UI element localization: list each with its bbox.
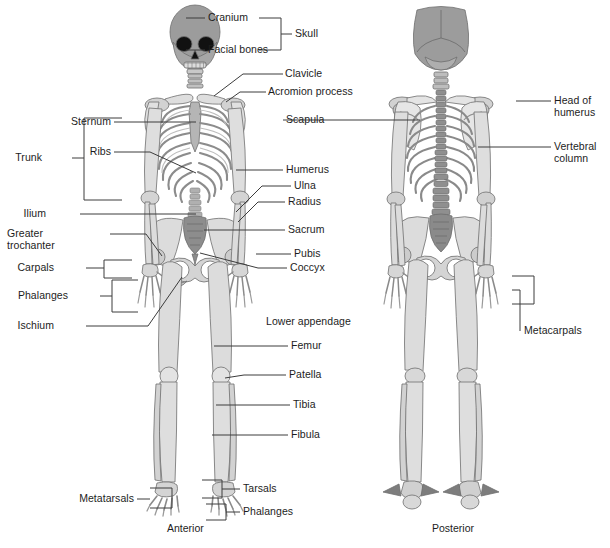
label-skull: Skull — [295, 28, 318, 40]
leader-acromion — [226, 92, 266, 102]
leader-ulna — [236, 186, 291, 212]
label-phalanges-foot: Phalanges — [243, 506, 293, 518]
label-tibia: Tibia — [293, 399, 316, 411]
label-carpals: Carpals — [2, 262, 54, 274]
skeleton-diagram: Cranium Facial bones Sternum Ribs Trunk … — [0, 0, 610, 548]
label-vertebral-column: Vertebral column — [554, 141, 596, 164]
bracket-tarsals — [202, 480, 240, 498]
leader-metatarsals — [137, 488, 172, 508]
label-cranium: Cranium — [208, 12, 248, 24]
label-ischium: Ischium — [2, 320, 54, 332]
leader-lines-layer — [0, 0, 610, 548]
leader-coccyx — [200, 253, 287, 268]
bracket-carpals — [86, 260, 132, 278]
bracket-metacarpals — [512, 276, 534, 331]
label-ulna: Ulna — [294, 180, 316, 192]
label-greater-trochanter: Greater trochanter — [7, 228, 55, 251]
label-lower-appendage: Lower appendage — [266, 316, 351, 328]
bracket-phalanges-foot — [206, 504, 240, 520]
label-pubis: Pubis — [294, 248, 321, 260]
label-sacrum: Sacrum — [288, 224, 324, 236]
label-radius: Radius — [288, 196, 321, 208]
leader-ischium — [86, 277, 182, 326]
label-fibula: Fibula — [291, 429, 320, 441]
leader-patella — [225, 375, 286, 378]
label-ilium: Ilium — [2, 208, 46, 220]
caption-posterior: Posterior — [432, 522, 474, 534]
label-femur: Femur — [291, 340, 322, 352]
leader-ribs — [114, 152, 196, 173]
leader-greater-trochanter — [110, 234, 162, 256]
label-sternum: Sternum — [20, 116, 111, 128]
label-coccyx: Coccyx — [290, 262, 325, 274]
label-tarsals: Tarsals — [243, 483, 277, 495]
label-acromion-process: Acromion process — [268, 86, 353, 98]
bracket-phalanges-hand — [100, 280, 138, 312]
label-phalanges-hand: Phalanges — [2, 290, 68, 302]
label-scapula: Scapula — [286, 114, 324, 126]
label-metatarsals: Metatarsals — [60, 493, 134, 505]
label-metacarpals: Metacarpals — [524, 325, 582, 337]
bracket-trunk — [72, 118, 122, 200]
leader-radius — [238, 202, 285, 222]
label-facial-bones: Facial bones — [208, 44, 268, 56]
label-humerus: Humerus — [286, 164, 329, 176]
label-head-of-humerus: Head of humerus — [554, 95, 595, 118]
label-trunk: Trunk — [2, 152, 42, 164]
caption-anterior: Anterior — [167, 522, 204, 534]
label-clavicle: Clavicle — [285, 68, 322, 80]
label-patella: Patella — [289, 369, 321, 381]
